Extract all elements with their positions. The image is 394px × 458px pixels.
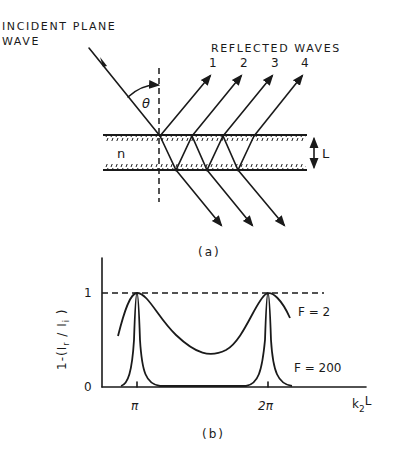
legend-f2: F = 2 xyxy=(298,305,330,319)
reflected-wave-number-3: 3 xyxy=(271,56,279,70)
x-tick-label-2pi: 2π xyxy=(258,399,274,413)
figure-b-chart: 1 0 1-(Ir / Ii ) F = 2 F = 200 π 2π k2L … xyxy=(55,258,372,441)
legend-f200: F = 200 xyxy=(294,361,342,375)
reflected-waves-label: REFLECTED WAVES xyxy=(211,42,341,55)
y-axis-title: 1-(Ir / Ii ) xyxy=(55,309,71,370)
x-axis-title: k2L xyxy=(352,394,372,414)
y-tick-label-0: 0 xyxy=(84,380,92,394)
curve-f200 xyxy=(121,293,292,386)
reflected-wave-number-1: 1 xyxy=(209,56,217,70)
reflected-ray-4 xyxy=(254,76,302,136)
reflected-wave-number-4: 4 xyxy=(301,56,309,70)
incident-label-line2: WAVE xyxy=(2,35,40,48)
reflected-ray-3 xyxy=(223,76,272,136)
figure-a-caption: (a) xyxy=(198,245,221,259)
y-tick-label-1: 1 xyxy=(84,286,92,300)
reflected-wave-number-2: 2 xyxy=(240,56,248,70)
figure-a: INCIDENT PLANE WAVE REFLECTED WAVES 1 2 … xyxy=(2,20,341,259)
angle-theta-label: θ xyxy=(142,96,150,111)
x-tick-label-pi: π xyxy=(131,399,139,413)
figure-b-caption: (b) xyxy=(202,427,225,441)
svg-text:1-(Ir / Ii ): 1-(Ir / Ii ) xyxy=(55,309,71,370)
incident-label-line1: INCIDENT PLANE xyxy=(2,20,116,33)
reflected-ray-2 xyxy=(192,76,241,136)
refractive-index-label: n xyxy=(117,146,125,161)
slab-top-hatching xyxy=(104,136,306,141)
incident-ray xyxy=(89,48,160,136)
thickness-label: L xyxy=(322,146,330,161)
reflected-ray-1 xyxy=(160,76,210,136)
optical-thin-film-figure: INCIDENT PLANE WAVE REFLECTED WAVES 1 2 … xyxy=(0,0,394,458)
